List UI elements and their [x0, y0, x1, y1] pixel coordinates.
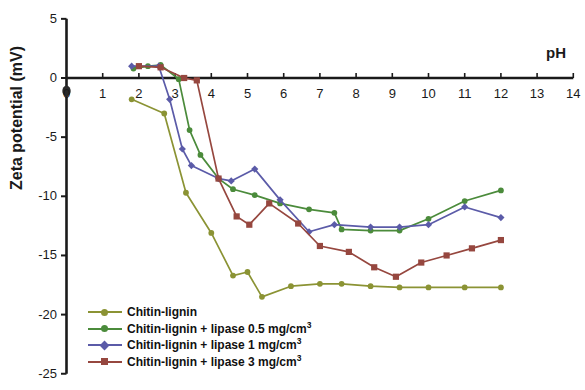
x-tick-label: 6 — [272, 86, 296, 101]
x-tick-label: 8 — [344, 86, 368, 101]
x-tick-label: 11 — [453, 86, 477, 101]
y-tick-label: -25 — [23, 366, 57, 381]
legend-swatch-icon — [88, 322, 122, 336]
y-tick-label: -20 — [23, 307, 57, 322]
legend-label: Chitin-lignin + lipase 3 mg/cm3 — [127, 355, 301, 369]
y-tick-label: 0 — [23, 70, 57, 85]
legend-label: Chitin-lignin + lipase 0.5 mg/cm3 — [127, 322, 311, 336]
x-axis-title: pH — [546, 44, 566, 61]
chart-legend: Chitin-ligninChitin-lignin + lipase 0.5 … — [88, 304, 418, 370]
x-tick-label: 9 — [380, 86, 404, 101]
x-tick-label: 13 — [525, 86, 549, 101]
legend-swatch-icon — [88, 338, 122, 352]
series-0 — [129, 96, 504, 299]
legend-item: Chitin-lignin + lipase 1 mg/cm3 — [88, 337, 418, 354]
x-tick-label: 5 — [236, 86, 260, 101]
y-tick-label: 5 — [23, 11, 57, 26]
legend-label: Chitin-lignin — [127, 305, 197, 319]
x-tick-label: 7 — [308, 86, 332, 101]
legend-item: Chitin-lignin — [88, 304, 418, 321]
x-tick-label: 2 — [127, 86, 151, 101]
legend-label: Chitin-lignin + lipase 1 mg/cm3 — [127, 338, 301, 352]
legend-item: Chitin-lignin + lipase 3 mg/cm3 — [88, 354, 418, 371]
legend-swatch-icon — [88, 355, 122, 369]
x-tick-label: 4 — [199, 86, 223, 101]
x-tick-label: 0 — [55, 86, 79, 101]
y-tick-label: -5 — [23, 129, 57, 144]
x-tick-label: 14 — [561, 86, 585, 101]
zeta-potential-chart: Zeta potential (mV) pH 50-5-10-15-20-250… — [0, 0, 585, 390]
y-tick-label: -10 — [23, 188, 57, 203]
legend-swatch-icon — [88, 305, 122, 319]
x-tick-label: 12 — [489, 86, 513, 101]
x-tick-label: 10 — [417, 86, 441, 101]
y-tick-label: -15 — [23, 247, 57, 262]
legend-item: Chitin-lignin + lipase 0.5 mg/cm3 — [88, 321, 418, 338]
x-tick-label: 3 — [163, 86, 187, 101]
x-tick-label: 1 — [91, 86, 115, 101]
